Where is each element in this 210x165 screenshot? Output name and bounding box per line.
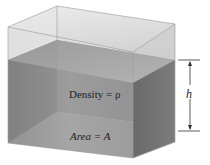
arrow-up-icon [188, 61, 192, 66]
density-label: Density = ρ [69, 88, 120, 100]
area-label: Area = A [70, 130, 110, 142]
arrow-down-icon [188, 125, 192, 130]
height-label: h [186, 87, 192, 102]
